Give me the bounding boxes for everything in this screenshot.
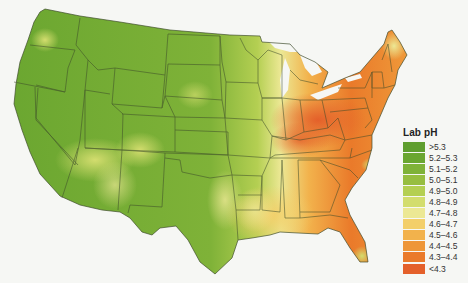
legend-swatch [403,186,425,196]
us-ph-map [0,0,468,283]
legend-swatch [403,164,425,174]
legend-item: 4.5–4.6 [403,230,468,241]
map-legend: Lab pH >5.3 5.2–5.3 5.1–5.2 5.0–5.1 4.9–… [403,127,468,274]
legend-item: 4.4–4.5 [403,241,468,252]
legend-item: 5.0–5.1 [403,174,468,185]
legend-swatch [403,197,425,207]
legend-swatch [403,175,425,185]
legend-item: 5.1–5.2 [403,163,468,174]
legend-swatch [403,241,425,251]
legend-item: 4.7–4.8 [403,208,468,219]
legend-item: 4.9–5.0 [403,185,468,196]
legend-swatch [403,219,425,229]
legend-item: 4.3–4.4 [403,252,468,263]
legend-item: 4.8–4.9 [403,196,468,207]
map-fill [0,0,468,283]
legend-swatch [403,264,425,274]
legend-item: 4.6–4.7 [403,219,468,230]
legend-item: >5.3 [403,141,468,152]
legend-swatch [403,142,425,152]
legend-swatch [403,153,425,163]
legend-swatch [403,230,425,240]
legend-swatch [403,208,425,218]
legend-title: Lab pH [403,127,468,138]
legend-item: 5.2–5.3 [403,152,468,163]
legend-swatch [403,252,425,262]
legend-item: <4.3 [403,263,468,274]
